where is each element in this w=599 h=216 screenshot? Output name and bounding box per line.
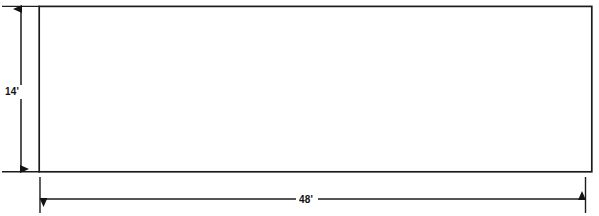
diagram-canvas: 14' 48' [0,0,599,216]
main-rectangle [39,6,592,171]
horizontal-dimension-label: 48' [299,194,313,205]
vertical-dimension-label: 14' [5,86,19,97]
dimension-drawing: 14' 48' [0,0,599,216]
